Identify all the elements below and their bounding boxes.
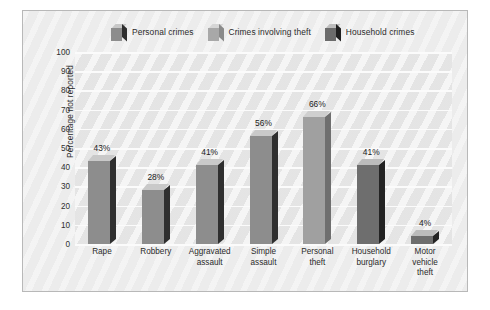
x-axis-category-line: assault [237,258,291,269]
bar[interactable] [303,109,331,244]
x-axis-category-label: Rape [75,247,129,258]
bar-value-label: 41% [196,147,224,157]
bar-side-face [272,131,278,244]
x-axis-category-label: Simpleassault [237,247,291,268]
x-axis-category-line: theft [290,258,344,269]
x-axis-category-line: burglary [344,258,398,269]
bar-value-label: 66% [303,99,331,109]
bar-front-face [303,117,325,244]
legend-label: Personal crimes [132,27,194,37]
bar-value-label: 4% [411,218,439,228]
plot-area: 100908070605040302010043%28%41%56%66%41%… [75,52,452,244]
bar-front-face [250,136,272,244]
y-axis-tick-label: 20 [61,201,70,210]
bar[interactable] [142,182,170,244]
legend-cube-icon [325,24,341,41]
legend-label: Household crimes [346,27,415,37]
x-axis-category-line: Rape [75,247,129,258]
bar-value-label: 56% [250,118,278,128]
bar[interactable] [357,157,385,244]
gridline [75,244,452,246]
x-axis-category-label: Householdburglary [344,247,398,268]
legend-item[interactable]: Personal crimes [111,24,194,41]
x-axis-category-line: Robbery [129,247,183,258]
x-axis-category-line: theft [398,268,452,279]
x-axis-category-line: Personal [290,247,344,258]
legend-item[interactable]: Crimes involving theft [208,24,311,41]
x-axis-category-line: Aggravated [183,247,237,258]
bar-value-label: 43% [88,143,116,153]
gridline [75,52,452,54]
bar[interactable] [196,157,224,244]
x-axis-category-label: Robbery [129,247,183,258]
bar-front-face [142,190,164,244]
bar-value-label: 41% [357,147,385,157]
y-axis-tick-label: 10 [61,220,70,229]
x-axis-category-label: Motorvehicletheft [398,247,452,279]
bar-side-face [164,185,170,244]
legend-cube-icon [111,24,127,41]
bar-side-face [110,156,116,244]
chart-legend: Personal crimesCrimes involving theftHou… [111,19,461,45]
x-axis-category-label: Personaltheft [290,247,344,268]
bar[interactable] [411,228,439,244]
gridline [75,71,452,73]
bar-front-face [196,165,218,244]
bar-side-face [379,160,385,244]
legend-cube-icon [208,24,224,41]
bar-side-face [325,112,331,244]
x-axis-category-line: Household [344,247,398,258]
x-axis-labels: RapeRobberyAggravatedassaultSimpleassaul… [75,247,452,291]
legend-item[interactable]: Household crimes [325,24,415,41]
gridline [75,90,452,92]
gridline [75,110,452,112]
legend-label: Crimes involving theft [229,27,311,37]
y-axis-tick-label: 0 [65,240,70,249]
x-axis-category-line: assault [183,258,237,269]
bar-value-label: 28% [142,172,170,182]
bar-front-face [411,236,433,244]
x-axis-category-line: Motor [398,247,452,258]
x-axis-category-line: vehicle [398,258,452,269]
x-axis-category-line: Simple [237,247,291,258]
bar[interactable] [88,153,116,244]
y-axis-title: Percentage not reported [66,37,75,187]
bar-front-face [88,161,110,244]
chart-figure: Personal crimesCrimes involving theftHou… [22,10,468,292]
bar-front-face [357,165,379,244]
x-axis-category-label: Aggravatedassault [183,247,237,268]
bar-side-face [218,160,224,244]
bar[interactable] [250,128,278,244]
